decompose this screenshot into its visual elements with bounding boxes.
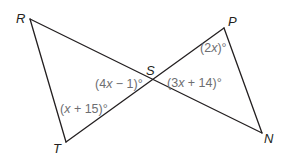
angle-label-PSN: (3x + 14)° — [167, 76, 222, 90]
angle-label-RST: (4x − 1)° — [95, 77, 143, 91]
vertex-label-T: T — [53, 141, 62, 153]
angle-label-P: (2x)° — [200, 41, 227, 55]
vertex-label-S: S — [146, 63, 155, 78]
vertex-label-P: P — [228, 14, 237, 29]
geometry-diagram: R P S T N (2x)° (4x − 1)° (3x + 14)° (x … — [0, 0, 285, 153]
vertex-label-N: N — [264, 131, 274, 146]
angle-label-T: (x + 15)° — [60, 102, 108, 116]
vertex-label-R: R — [16, 11, 25, 26]
segment-RT — [30, 19, 66, 142]
